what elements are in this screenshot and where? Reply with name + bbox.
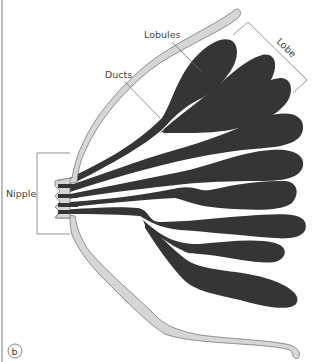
label-lobe: Lobe	[275, 36, 299, 60]
duct-4	[58, 210, 78, 214]
label-ducts: Ducts	[105, 69, 132, 80]
lobe-7	[58, 207, 306, 238]
breast-anatomy-diagram: Lobules Ducts Lobe Nipple b	[0, 0, 317, 362]
label-lobules: Lobules	[144, 29, 180, 40]
duct-2	[58, 194, 78, 198]
panel-label: b	[12, 346, 18, 357]
label-nipple: Nipple	[6, 188, 36, 199]
duct-1	[58, 184, 78, 188]
duct-3	[58, 203, 78, 207]
lobe-6	[58, 181, 297, 210]
ducts-leader	[125, 82, 160, 118]
